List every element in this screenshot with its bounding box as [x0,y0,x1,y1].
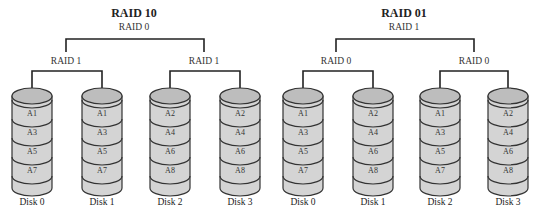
data-block-label: A2 [165,109,175,118]
top-level-label: RAID 0 [119,22,149,32]
disk-top [12,88,52,104]
data-block-label: A1 [435,109,445,118]
disk-top [150,88,190,104]
disk-top [82,88,122,104]
diagram-title: RAID 01 [381,6,427,21]
disk-cylinder [283,88,323,196]
disk-top [283,88,323,104]
group-label: RAID 1 [51,56,81,66]
group-label: RAID 0 [321,56,351,66]
top-level-label: RAID 1 [389,22,419,32]
data-block-label: A2 [235,109,245,118]
data-block-label: A5 [298,147,308,156]
disk-cylinder [150,88,190,196]
disk-top [353,88,393,104]
data-block-label: A6 [235,147,245,156]
data-block-label: A4 [235,128,245,137]
data-block-label: A1 [298,109,308,118]
data-block-label: A4 [368,128,378,137]
disk-label: Disk 0 [19,197,44,207]
group1-bracket [303,71,373,88]
raid10-connectors [0,0,270,218]
disk-label: Disk 2 [427,197,452,207]
data-block-label: A4 [503,128,513,137]
disk-label: Disk 2 [157,197,182,207]
disk-cylinder [12,88,52,196]
group-label: RAID 1 [189,56,219,66]
group2-bracket [440,71,508,88]
disk-cylinder [420,88,460,196]
data-block-label: A3 [435,128,445,137]
data-block-label: A4 [165,128,175,137]
group1-bracket [32,71,102,88]
raid01-connectors [270,0,539,218]
disk-label: Disk 1 [360,197,385,207]
raid01-diagram: RAID 01 RAID 1 RAID 0 RAID 0 A1A3A5A7Dis… [270,0,539,218]
raid10-diagram: RAID 10 RAID 0 RAID 1 RAID 1 A1A3A5A7Dis… [0,0,270,218]
disk-top [220,88,260,104]
data-block-label: A6 [165,147,175,156]
data-block-label: A6 [503,147,513,156]
top-bracket [336,39,474,52]
data-block-label: A7 [27,166,37,175]
data-block-label: A5 [27,147,37,156]
disk-top [420,88,460,104]
group-label: RAID 0 [459,56,489,66]
disk-cylinder [353,88,393,196]
disk-cylinder [488,88,528,196]
disk-label: Disk 3 [227,197,252,207]
data-block-label: A3 [27,128,37,137]
data-block-label: A2 [368,109,378,118]
diagram-title: RAID 10 [111,6,157,21]
disk-top [488,88,528,104]
group2-bracket [170,71,240,88]
data-block-label: A3 [298,128,308,137]
disk-label: Disk 3 [495,197,520,207]
data-block-label: A7 [298,166,308,175]
data-block-label: A6 [368,147,378,156]
disk-cylinder [220,88,260,196]
data-block-label: A8 [235,166,245,175]
data-block-label: A7 [97,166,107,175]
disk-cylinder [82,88,122,196]
data-block-label: A8 [503,166,513,175]
data-block-label: A3 [97,128,107,137]
data-block-label: A5 [97,147,107,156]
data-block-label: A8 [165,166,175,175]
top-bracket [66,39,204,52]
data-block-label: A8 [368,166,378,175]
data-block-label: A5 [435,147,445,156]
disk-label: Disk 0 [290,197,315,207]
data-block-label: A7 [435,166,445,175]
data-block-label: A1 [27,109,37,118]
disk-label: Disk 1 [89,197,114,207]
raid-diagram-figure: RAID 10 RAID 0 RAID 1 RAID 1 A1A3A5A7Dis… [0,0,539,218]
data-block-label: A2 [503,109,513,118]
data-block-label: A1 [97,109,107,118]
